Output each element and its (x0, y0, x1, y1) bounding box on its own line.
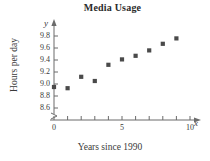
y-tick-label: 8.8 (26, 92, 50, 100)
x-tick-label: 5 (112, 124, 132, 132)
x-tick-label: 0 (44, 124, 64, 132)
y-tick-label: 9.0 (26, 80, 50, 88)
x-tick-label: 10 (180, 124, 200, 132)
media-usage-chart: Media Usage Hours per day Years since 19… (0, 0, 210, 161)
y-tick-label: 9.2 (26, 68, 50, 76)
tick-label-layer: 8.68.89.09.29.49.69.80510 (0, 0, 210, 161)
y-tick-label: 9.6 (26, 44, 50, 52)
y-tick-label: 9.8 (26, 32, 50, 40)
y-tick-label: 8.6 (26, 104, 50, 112)
y-tick-label: 9.4 (26, 56, 50, 64)
